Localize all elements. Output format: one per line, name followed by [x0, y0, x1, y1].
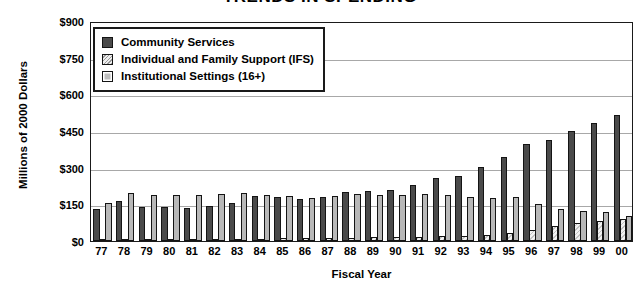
bar-community[interactable] [342, 192, 348, 241]
bar-community[interactable] [116, 201, 122, 241]
bar-community[interactable] [320, 197, 326, 241]
x-tick-label: 92 [429, 246, 452, 257]
bar-institutional[interactable] [241, 193, 247, 241]
x-tick-label: 82 [203, 246, 226, 257]
x-tick-label: 83 [226, 246, 249, 257]
chart-title: TRENDS IN SPENDING [0, 0, 640, 7]
bar-institutional[interactable] [377, 195, 383, 241]
y-axis-title: Millions of 2000 Dollars [17, 25, 29, 225]
bar-community[interactable] [501, 157, 507, 241]
bar-institutional[interactable] [196, 195, 202, 241]
bar-institutional[interactable] [173, 195, 179, 241]
x-tick-label: 81 [181, 246, 204, 257]
y-axis-tick-labels: $0$150$300$450$600$750$900 [38, 0, 84, 293]
bar-institutional[interactable] [332, 196, 338, 241]
bar-community[interactable] [365, 191, 371, 241]
x-tick-label: 90 [384, 246, 407, 257]
bar-institutional[interactable] [422, 194, 428, 241]
bar-institutional[interactable] [626, 216, 632, 241]
bar-community[interactable] [546, 140, 552, 241]
bar-community[interactable] [139, 207, 145, 241]
bar-community[interactable] [184, 208, 190, 241]
bar-institutional[interactable] [286, 196, 292, 241]
bar-institutional[interactable] [513, 197, 519, 241]
bar-group [455, 23, 473, 241]
legend-swatch-community-icon [102, 37, 113, 48]
y-tick-label: $150 [40, 200, 84, 211]
bar-institutional[interactable] [467, 197, 473, 241]
bar-group [523, 23, 541, 241]
bar-community[interactable] [387, 190, 393, 241]
bar-group [591, 23, 609, 241]
bar-institutional[interactable] [399, 195, 405, 241]
x-axis-title: Fiscal Year [90, 268, 633, 280]
bar-group [433, 23, 451, 241]
bar-community[interactable] [274, 197, 280, 241]
y-tick-label: $0 [40, 237, 84, 248]
x-tick-label: 78 [113, 246, 136, 257]
bar-institutional[interactable] [309, 198, 315, 242]
bar-community[interactable] [410, 185, 416, 241]
x-tick-label: 77 [90, 246, 113, 257]
bar-institutional[interactable] [535, 204, 541, 241]
y-tick-label: $600 [40, 90, 84, 101]
bar-group [568, 23, 586, 241]
legend-item[interactable]: Individual and Family Support (IFS) [102, 51, 314, 68]
bar-institutional[interactable] [490, 198, 496, 242]
bar-community[interactable] [433, 178, 439, 241]
x-tick-label: 86 [294, 246, 317, 257]
x-tick-label: 80 [158, 246, 181, 257]
legend-swatch-institutional-icon [102, 71, 113, 82]
bar-group [387, 23, 405, 241]
x-tick-label: 79 [135, 246, 158, 257]
bar-institutional[interactable] [445, 195, 451, 241]
bar-institutional[interactable] [105, 203, 111, 241]
x-tick-label: 87 [316, 246, 339, 257]
bar-group [410, 23, 428, 241]
bar-institutional[interactable] [151, 195, 157, 241]
bar-group [365, 23, 383, 241]
bar-community[interactable] [455, 176, 461, 242]
bar-group [342, 23, 360, 241]
chart-figure: TRENDS IN SPENDING Millions of 2000 Doll… [0, 0, 640, 293]
x-tick-label: 97 [543, 246, 566, 257]
x-tick-label: 91 [407, 246, 430, 257]
bar-institutional[interactable] [603, 212, 609, 241]
x-tick-label: 00 [610, 246, 633, 257]
x-tick-label: 89 [362, 246, 385, 257]
bar-institutional[interactable] [580, 211, 586, 241]
y-tick-label: $300 [40, 164, 84, 175]
bar-community[interactable] [206, 206, 212, 241]
legend-item[interactable]: Community Services [102, 34, 314, 51]
bar-institutional[interactable] [218, 194, 224, 241]
x-tick-label: 95 [497, 246, 520, 257]
x-tick-label: 94 [475, 246, 498, 257]
bar-institutional[interactable] [128, 193, 134, 241]
bar-community[interactable] [478, 167, 484, 241]
bar-community[interactable] [93, 209, 99, 241]
bar-community[interactable] [297, 199, 303, 241]
y-tick-label: $450 [40, 127, 84, 138]
y-tick-label: $900 [40, 17, 84, 28]
legend-item[interactable]: Institutional Settings (16+) [102, 68, 314, 85]
bar-group [501, 23, 519, 241]
bar-community[interactable] [523, 144, 529, 241]
x-tick-label: 84 [248, 246, 271, 257]
x-tick-label: 93 [452, 246, 475, 257]
bar-institutional[interactable] [354, 194, 360, 241]
bar-community[interactable] [229, 203, 235, 241]
bar-community[interactable] [591, 123, 597, 241]
bar-institutional[interactable] [264, 195, 270, 241]
bar-community[interactable] [161, 207, 167, 241]
bar-community[interactable] [252, 196, 258, 241]
bar-institutional[interactable] [558, 209, 564, 241]
bar-group [614, 23, 632, 241]
bar-community[interactable] [568, 131, 574, 241]
legend-label: Institutional Settings (16+) [121, 71, 265, 83]
x-tick-label: 85 [271, 246, 294, 257]
x-tick-label: 88 [339, 246, 362, 257]
x-axis-tick-labels: 7778798081828384858687888990919293949596… [90, 246, 633, 262]
bar-community[interactable] [614, 115, 620, 241]
bar-group [478, 23, 496, 241]
legend-label: Individual and Family Support (IFS) [121, 54, 314, 66]
